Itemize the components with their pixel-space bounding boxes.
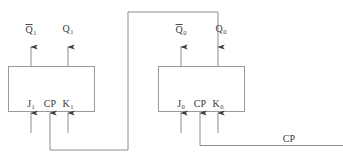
ff1-k-input-label: K1 [63,99,74,109]
ff1-k-subscript: 1 [70,103,73,110]
clock-signal-label: CP [283,134,296,144]
circuit-diagram: Q1 Q1 J1 CP K1 Q0 Q0 J0 CP K0 CP [0,0,343,160]
ff0-k-base: K [213,98,220,109]
ff0-k-subscript: 0 [220,103,223,110]
ff1-qbar-base: Q [26,24,33,35]
ff0-cp-base: CP [194,98,207,109]
ff1-cp-base: CP [44,98,57,109]
ff0-j-input-label: J0 [177,99,185,109]
ff1-k-base: K [63,98,70,109]
ff1-j-subscript: 1 [32,103,35,110]
ff0-qbar-output-label: Q0 [176,24,187,35]
ff0-q-output-label: Q0 [216,24,227,34]
ff1-j-input-label: J1 [27,99,35,109]
ff0-k-input-label: K0 [213,99,224,109]
ff0-qbar-subscript: 0 [183,29,186,36]
ff1-qbar-subscript: 1 [33,29,36,36]
ff1-qbar-output-label: Q1 [26,24,37,35]
ff0-q-subscript: 0 [223,28,226,35]
ff0-cp-input-label: CP [194,99,207,109]
ff1-cp-input-label: CP [44,99,57,109]
ff1-q-output-label: Q1 [63,24,74,34]
ff1-q-subscript: 1 [70,28,73,35]
ff1-q-base: Q [63,23,70,34]
ff0-qbar-base: Q [176,24,183,35]
ff0-q-base: Q [216,23,223,34]
ff0-j-subscript: 0 [182,103,185,110]
q0-to-cp1-feedback-wire [50,12,218,150]
